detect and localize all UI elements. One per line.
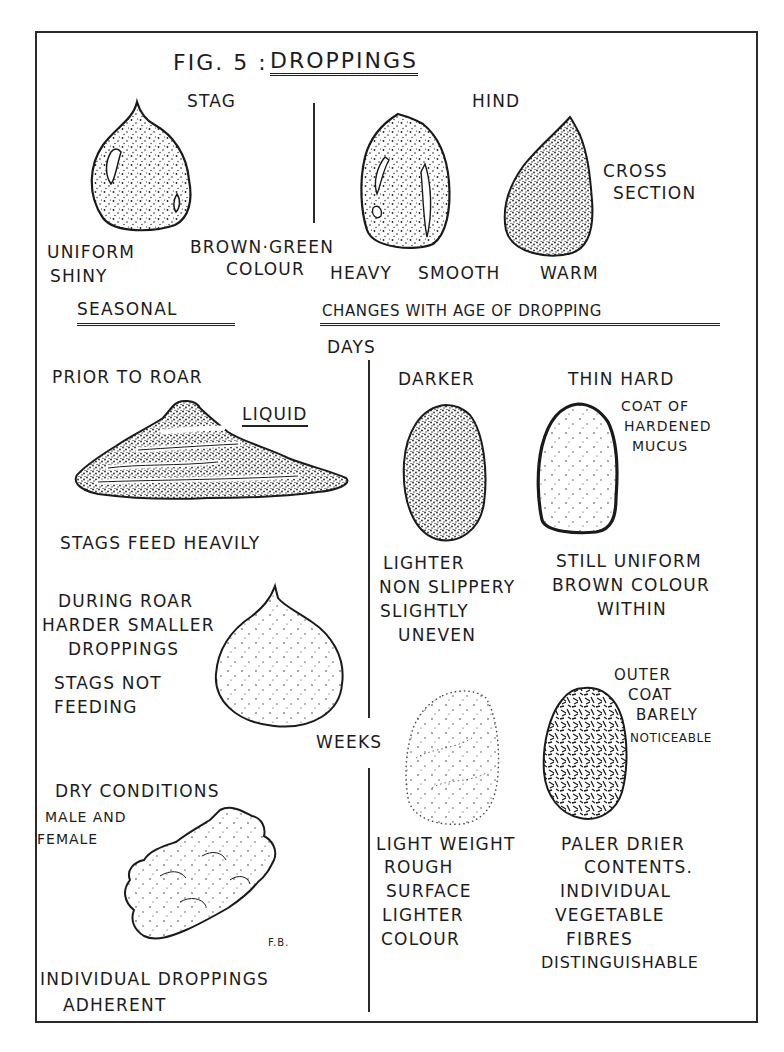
mucus-coat-line2: HARDENED <box>624 417 712 435</box>
days-left-bottom-line3: SLIGHTLY <box>380 600 469 622</box>
weeks-right-bottom-line1: PALER DRIER <box>561 833 685 855</box>
age-underline <box>320 323 720 326</box>
stags-not-feeding-line2: FEEDING <box>54 696 138 718</box>
days-thin-hard-label: THIN HARD <box>568 368 674 390</box>
hind-label-warm: WARM <box>540 262 599 284</box>
weeks-fibrous-dropping-illustration <box>536 684 632 824</box>
days-left-bottom-line2: NON SLIPPERY <box>379 576 515 598</box>
dry-conditions-line3: FEMALE <box>37 830 98 848</box>
hind-heading: HIND <box>472 90 520 112</box>
adherent-label-line1: INDIVIDUAL DROPPINGS <box>40 968 269 990</box>
stag-label-uniform: UNIFORM <box>47 241 135 263</box>
days-darker-label: DARKER <box>398 368 475 390</box>
days-darker-dropping-illustration <box>400 403 490 543</box>
adherent-label-line2: ADHERENT <box>63 994 167 1016</box>
days-mucus-dropping-illustration <box>536 402 626 534</box>
hind-cross-section-illustration <box>500 115 600 260</box>
days-right-bottom-line1: STILL UNIFORM <box>556 550 702 572</box>
dry-conditions-line2: MALE AND <box>45 808 127 826</box>
figure-number: FIG. 5 : <box>173 52 268 74</box>
days-left-bottom-line4: UNEVEN <box>398 624 476 646</box>
hind-dropping-illustration <box>355 112 455 252</box>
seasonal-underline <box>77 323 235 326</box>
weeks-lightweight-dropping-illustration <box>402 688 502 828</box>
outer-coat-line4: NOTICEABLE <box>630 729 712 747</box>
during-roar-line2: DROPPINGS <box>68 638 179 660</box>
colour-label-line1: BROWN·GREEN <box>190 236 334 258</box>
during-roar-line1: HARDER SMALLER <box>42 614 215 636</box>
mucus-coat-line3: MUCUS <box>632 437 688 455</box>
weeks-left-bottom-line4: LIGHTER <box>382 904 464 926</box>
stag-dropping-illustration <box>85 100 195 240</box>
days-right-bottom-line3: WITHIN <box>597 598 667 620</box>
days-heading: DAYS <box>327 336 376 358</box>
roar-dropping-illustration <box>212 584 347 729</box>
age-heading: CHANGES WITH AGE OF DROPPING <box>322 302 602 320</box>
days-left-bottom-line1: LIGHTER <box>383 552 465 574</box>
hind-label-heavy: HEAVY <box>330 262 392 284</box>
weeks-right-bottom-line4: VEGETABLE <box>555 904 665 926</box>
weeks-right-bottom-line6: DISTINGUISHABLE <box>541 952 699 974</box>
stags-not-feeding-line1: STAGS NOT <box>54 672 162 694</box>
stag-label-shiny: SHINY <box>50 265 108 287</box>
stags-feed-heavily-label: STAGS FEED HEAVILY <box>60 532 260 554</box>
weeks-left-bottom-line5: COLOUR <box>381 928 460 950</box>
seasonal-heading: SEASONAL <box>77 298 178 320</box>
weeks-left-bottom-line3: SURFACE <box>386 880 472 902</box>
weeks-right-bottom-line5: FIBRES <box>566 928 633 950</box>
weeks-heading: WEEKS <box>316 731 382 753</box>
cross-section-label-line2: SECTION <box>613 182 696 204</box>
colour-label-line2: COLOUR <box>226 258 305 280</box>
outer-coat-line3: BARELY <box>636 706 698 724</box>
stag-hind-divider <box>313 103 315 223</box>
outer-coat-line2: COAT <box>628 686 672 704</box>
cross-section-label-line1: CROSS <box>603 160 668 182</box>
during-roar-heading: DURING ROAR <box>58 590 193 612</box>
weeks-left-bottom-line1: LIGHT WEIGHT <box>376 833 516 855</box>
weeks-right-bottom-line2: CONTENTS. <box>584 856 693 878</box>
mucus-coat-line1: COAT OF <box>621 397 689 415</box>
prior-to-roar-heading: PRIOR TO ROAR <box>52 366 203 388</box>
weeks-right-bottom-line3: INDIVIDUAL <box>560 880 671 902</box>
seasonal-age-divider-lower <box>368 768 370 1012</box>
artist-initials: F.B. <box>268 934 289 952</box>
liquid-dropping-illustration <box>68 398 353 503</box>
adherent-dropping-illustration <box>120 806 300 946</box>
dry-conditions-line1: DRY CONDITIONS <box>55 780 220 802</box>
weeks-left-bottom-line2: ROUGH <box>384 856 454 878</box>
hind-label-smooth: SMOOTH <box>418 262 501 284</box>
seasonal-age-divider-upper <box>368 360 370 718</box>
figure-title: DROPPINGS <box>270 50 418 76</box>
days-right-bottom-line2: BROWN COLOUR <box>552 574 710 596</box>
outer-coat-line1: OUTER <box>614 666 671 684</box>
